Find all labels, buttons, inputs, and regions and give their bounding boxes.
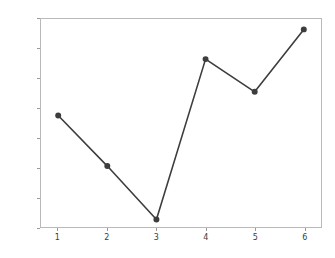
data-point [203,56,209,62]
x-tick-label: 6 [302,233,307,242]
x-tick-label: 3 [154,233,159,242]
x-tick-mark [57,228,58,231]
data-markers [55,26,307,222]
data-point [55,113,61,119]
data-line [58,29,304,219]
x-tick-mark [156,228,157,231]
plot-area [40,18,322,228]
data-point [252,89,258,95]
x-tick-label: 2 [104,233,109,242]
data-point [104,163,110,169]
x-tick-mark [305,228,306,231]
x-tick-label: 5 [253,233,258,242]
chart-figure: 1820222426283032 123456 [0,0,335,258]
x-tick-mark [206,228,207,231]
x-tick-label: 1 [55,233,60,242]
data-point [153,217,159,223]
line-series-svg [41,19,321,227]
x-tick-mark [107,228,108,231]
data-point [301,26,307,32]
x-tick-mark [255,228,256,231]
x-tick-label: 4 [203,233,208,242]
